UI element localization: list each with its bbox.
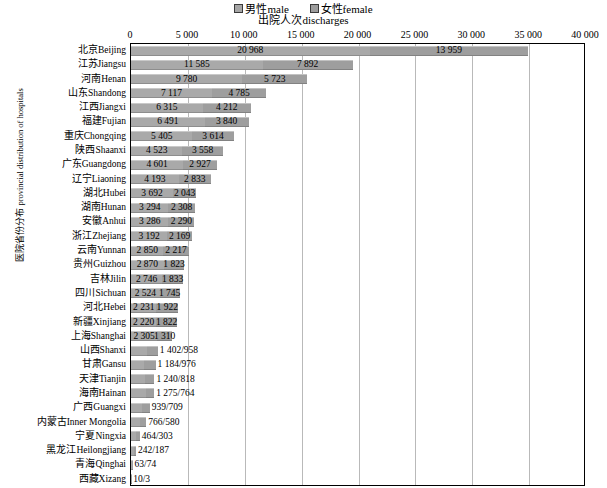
bar-value-label-female: 2 217 [165, 244, 186, 257]
bar-row[interactable]: 2 2311 922 [131, 301, 584, 315]
bar-value-label-female: 1 833 [162, 273, 183, 286]
category-label-cn: 青海 [75, 458, 95, 469]
bar-row[interactable]: 1 402/958 [131, 344, 584, 358]
category-label-en: Shandong [88, 88, 126, 98]
chart-title: 出院人次discharges [0, 14, 607, 26]
bar-row[interactable]: 1 275/764 [131, 387, 584, 401]
bar-row[interactable]: 9 7805 723 [131, 73, 584, 87]
bar-row[interactable]: 242/187 [131, 444, 584, 458]
bar-row[interactable]: 1 184/976 [131, 358, 584, 372]
bar-row[interactable]: 4 6012 927 [131, 158, 584, 172]
bar-row[interactable]: 2 8502 217 [131, 244, 584, 258]
category-label: 青海Qinghai [75, 457, 126, 471]
category-label-cn: 新疆 [73, 316, 93, 327]
bar-value-label-male: 4 523 [146, 144, 167, 157]
category-label: 湖北Hubei [83, 186, 126, 200]
bar-row[interactable]: 2 5241 745 [131, 287, 584, 301]
bar-row[interactable]: 6 3154 212 [131, 101, 584, 115]
category-label-cn: 重庆 [64, 130, 84, 141]
bar-row[interactable]: 766/580 [131, 416, 584, 430]
bar-segment-male[interactable] [131, 403, 142, 413]
category-label-en: Zhejiang [92, 231, 126, 241]
bar-value-label-male: 9 780 [176, 73, 197, 86]
bar-row[interactable]: 2 3051 310 [131, 330, 584, 344]
bar-value-label-female: 2 169 [169, 230, 190, 243]
bar-row[interactable]: 2 7461 833 [131, 273, 584, 287]
category-label: 山东Shandong [68, 86, 126, 100]
category-label-en: Anhui [102, 216, 126, 226]
bar-segment-male[interactable] [131, 417, 140, 427]
category-label-en: Hubei [103, 188, 126, 198]
bar-row[interactable]: 4 5233 558 [131, 144, 584, 158]
bar-segment-male[interactable] [131, 346, 147, 356]
bar-value-label-combined: 1 184/976 [158, 358, 196, 371]
category-label-cn: 西藏 [79, 473, 99, 484]
x-axis-ticks: 05 00010 00015 00020 00025 00030 00035 0… [130, 29, 585, 42]
bar-segment-female[interactable] [146, 388, 155, 398]
category-label-en: Ningxia [95, 431, 126, 441]
bar-segment-female[interactable] [136, 431, 139, 441]
bar-row[interactable]: 3 2942 308 [131, 201, 584, 215]
category-label: 吉林Jilin [90, 272, 126, 286]
bar-value-label-female: 2 927 [189, 158, 210, 171]
bar-segment-female[interactable] [142, 403, 150, 413]
bar-value-label-male: 6 315 [156, 101, 177, 114]
category-label: 辽宁Liaoning [72, 172, 126, 186]
bar-row[interactable]: 20 96813 959 [131, 44, 584, 58]
category-label: 海南Hainan [79, 386, 126, 400]
bar-row[interactable]: 1 240/818 [131, 373, 584, 387]
category-label-cn: 宁夏 [75, 430, 95, 441]
bar-row[interactable]: 464/303 [131, 430, 584, 444]
category-label-cn: 云南 [77, 244, 97, 255]
bar-rows: 20 96813 95911 5857 8929 7805 7237 1174 … [131, 44, 584, 485]
bar-segment-female[interactable] [145, 374, 154, 384]
bar-segment-male[interactable] [131, 374, 145, 384]
bar-value-label-male: 20 968 [237, 44, 263, 57]
bar-segment-female[interactable] [134, 446, 136, 456]
bar-row[interactable]: 2 8701 823 [131, 258, 584, 272]
bar-segment-male[interactable] [131, 388, 146, 398]
bar-row[interactable]: 7 1174 785 [131, 87, 584, 101]
female-swatch-icon [310, 4, 319, 13]
bar-segment-male[interactable] [131, 360, 144, 370]
bar-segment-female[interactable] [140, 417, 147, 427]
category-label-cn: 四川 [75, 287, 95, 298]
x-tick-label: 15 000 [287, 29, 315, 41]
bar-segment-female[interactable] [131, 474, 132, 484]
bar-value-label-male: 2 870 [137, 258, 158, 271]
bar-segment-female[interactable] [147, 346, 158, 356]
bar-value-label-male: 3 286 [139, 215, 160, 228]
bar-row[interactable]: 63/74 [131, 458, 584, 472]
x-tick-label: 30 000 [458, 29, 486, 41]
bar-value-label-combined: 766/580 [148, 416, 179, 429]
category-label-en: Hebei [103, 302, 126, 312]
category-label-en: Henan [101, 74, 126, 84]
bar-value-label-male: 3 294 [139, 201, 160, 214]
bar-segment-female[interactable] [144, 360, 155, 370]
bar-value-label-combined: 63/74 [135, 458, 157, 471]
category-label: 陕西Shaanxi [75, 143, 126, 157]
bar-row[interactable]: 3 1922 169 [131, 230, 584, 244]
x-tick-label: 0 [128, 29, 133, 41]
bar-row[interactable]: 4 1932 833 [131, 173, 584, 187]
bar-row[interactable]: 11 5857 892 [131, 58, 584, 72]
bar-value-label-female: 4 212 [216, 101, 237, 114]
bar-row[interactable]: 3 6922 043 [131, 187, 584, 201]
bar-row[interactable]: 939/709 [131, 401, 584, 415]
category-label-en: Qinghai [95, 459, 126, 469]
category-label: 河南Henan [81, 72, 126, 86]
category-label-cn: 上海 [71, 330, 91, 341]
x-tick-label: 5 000 [176, 29, 199, 41]
bar-row[interactable]: 5 4053 614 [131, 130, 584, 144]
category-label-cn: 福建 [82, 115, 102, 126]
bar-row[interactable]: 10/3 [131, 473, 584, 487]
bar-row[interactable]: 2 2201 822 [131, 316, 584, 330]
category-label-cn: 山东 [68, 87, 88, 98]
bar-row[interactable]: 3 2862 290 [131, 215, 584, 229]
bar-value-label-female: 1 310 [154, 330, 175, 343]
category-label-cn: 湖南 [81, 201, 101, 212]
bar-row[interactable]: 6 4913 840 [131, 115, 584, 129]
category-label: 江苏Jiangsu [78, 57, 127, 71]
category-label: 安徽Anhui [82, 214, 126, 228]
bar-segment-female[interactable] [132, 460, 133, 470]
